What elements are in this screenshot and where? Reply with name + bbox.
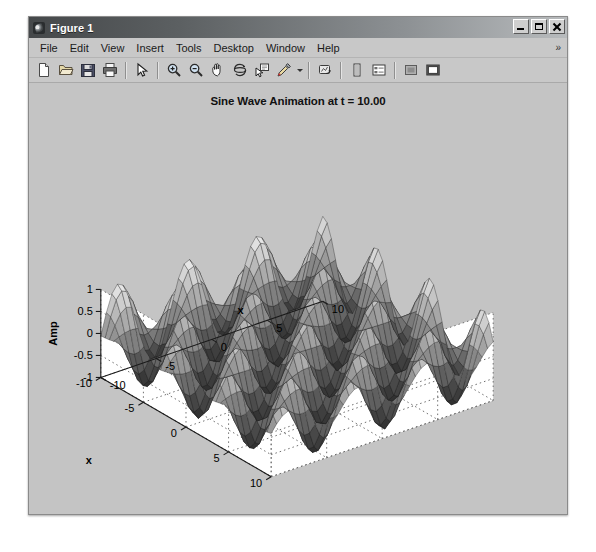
x-tick-label: 5 [276, 322, 282, 334]
hide-plot-tools-icon[interactable] [400, 60, 421, 81]
toolbar-separator [157, 62, 159, 79]
menu-item-window[interactable]: Window [260, 40, 311, 56]
menu-item-file[interactable]: File [34, 40, 64, 56]
toolbar-separator [308, 62, 310, 79]
plot-title: Sine Wave Animation at t = 10.00 [29, 95, 567, 107]
z-tick-label: -1 [83, 371, 93, 383]
y-tick-label: -5 [125, 402, 135, 414]
menu-item-view[interactable]: View [95, 40, 131, 56]
toolbar-separator [340, 62, 342, 79]
menu-overflow-icon[interactable]: » [555, 43, 561, 53]
pan-hand-icon[interactable] [207, 60, 228, 81]
menu-item-insert[interactable]: Insert [130, 40, 170, 56]
maximize-button[interactable] [531, 19, 547, 34]
x-axis-label: x [237, 304, 244, 316]
x-tick-label: -10 [110, 379, 126, 391]
menu-item-edit[interactable]: Edit [64, 40, 95, 56]
brush-dropdown-icon[interactable] [295, 60, 304, 81]
zoom-out-icon[interactable] [185, 60, 206, 81]
menu-item-help[interactable]: Help [311, 40, 346, 56]
figure-canvas[interactable]: Sine Wave Animation at t = 10.00 1050-5-… [29, 83, 567, 514]
insert-legend-icon[interactable] [368, 60, 389, 81]
window-titlebar: Figure 1 [29, 17, 567, 38]
x-tick-label: -5 [165, 360, 175, 372]
z-tick-label: -0.5 [74, 349, 93, 361]
window-buttons [513, 19, 565, 34]
zoom-in-icon[interactable] [163, 60, 184, 81]
z-axis-label: Amp [47, 321, 59, 346]
screenshot-root: Figure 1 File Edit View Insert Tools Des… [0, 0, 596, 552]
new-figure-icon[interactable] [33, 60, 54, 81]
rotate-3d-icon[interactable] [229, 60, 250, 81]
open-file-icon[interactable] [55, 60, 76, 81]
insert-colorbar-icon[interactable] [346, 60, 367, 81]
toolbar-separator [394, 62, 396, 79]
matlab-membrane-icon [32, 21, 46, 35]
edit-plot-pointer-icon[interactable] [131, 60, 152, 81]
save-figure-icon[interactable] [77, 60, 98, 81]
x-tick-label: 10 [332, 303, 344, 315]
link-plot-icon[interactable] [314, 60, 335, 81]
menu-item-desktop[interactable]: Desktop [208, 40, 260, 56]
y-tick-label: 5 [213, 452, 219, 464]
y-axis-label: x [86, 454, 93, 466]
show-plot-tools-icon[interactable] [422, 60, 443, 81]
minimize-button[interactable] [513, 19, 529, 34]
print-figure-icon[interactable] [99, 60, 120, 81]
toolbar [29, 58, 567, 83]
z-tick-label: 1 [87, 283, 93, 295]
menubar: File Edit View Insert Tools Desktop Wind… [29, 38, 567, 58]
x-tick-label: 0 [221, 341, 227, 353]
y-tick-label: 0 [171, 427, 177, 439]
surface-plot[interactable]: 1050-5-10-10-50510-1-0.500.51xxAmp [29, 83, 567, 514]
y-tick-label: 10 [250, 477, 262, 489]
z-tick-label: 0.5 [78, 305, 93, 317]
brush-data-icon[interactable] [273, 60, 294, 81]
close-button[interactable] [549, 19, 565, 34]
matlab-figure-window: Figure 1 File Edit View Insert Tools Des… [28, 16, 568, 515]
menu-item-tools[interactable]: Tools [170, 40, 208, 56]
data-cursor-icon[interactable] [251, 60, 272, 81]
z-tick-label: 0 [87, 327, 93, 339]
window-title: Figure 1 [50, 22, 94, 34]
toolbar-separator [125, 62, 127, 79]
